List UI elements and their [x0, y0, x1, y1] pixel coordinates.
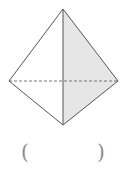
open-parenthesis: ( — [21, 140, 29, 164]
close-parenthesis: ) — [97, 140, 105, 164]
answer-blank-group: ( ) — [0, 140, 125, 166]
shaded-face — [63, 9, 118, 125]
pyramid-diagram — [0, 0, 125, 135]
edge-apex-left — [9, 9, 63, 81]
edge-left-bottom — [9, 81, 63, 125]
answer-blank[interactable] — [34, 140, 94, 164]
